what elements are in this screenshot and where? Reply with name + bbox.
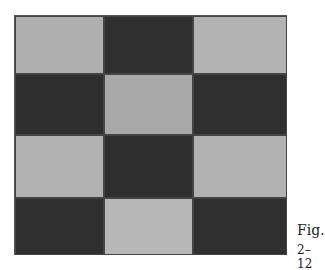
grid-cell-light <box>15 16 104 74</box>
grid-cell-very-light <box>104 198 193 255</box>
grid-cell-dark <box>15 198 104 255</box>
grid-cell-dark <box>104 135 193 198</box>
grid-cell-dark <box>193 74 287 135</box>
grid-cell-light <box>193 135 287 198</box>
grid-cell-dark <box>193 198 287 255</box>
grid-cell-medium-light <box>104 74 193 135</box>
grid-cell-light <box>193 16 287 74</box>
grid-cell-dark <box>104 16 193 74</box>
checkerboard-grid <box>14 15 287 255</box>
grid-cell-dark <box>15 74 104 135</box>
figure-caption-number: 2–12 <box>297 243 325 270</box>
grid-cell-light <box>15 135 104 198</box>
figure-caption-label: Fig. <box>297 222 325 238</box>
